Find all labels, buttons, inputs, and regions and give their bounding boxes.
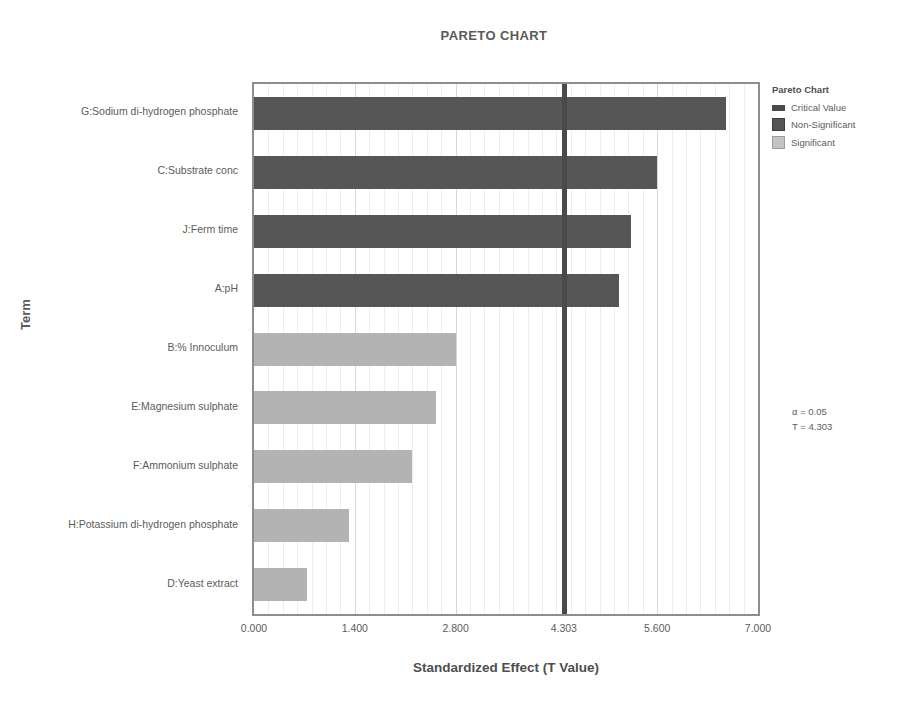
significance-annotation: α = 0.05 T = 4.303 bbox=[792, 404, 832, 434]
y-axis-category-label: B:% Innoculum bbox=[167, 341, 238, 353]
x-axis-tick-label: 4.303 bbox=[551, 622, 577, 634]
gridline-minor bbox=[744, 84, 745, 614]
bar bbox=[254, 156, 657, 189]
x-axis-tick-label: 0.000 bbox=[241, 622, 267, 634]
gridline-minor bbox=[729, 84, 730, 614]
legend-item-label: Significant bbox=[791, 137, 835, 148]
y-axis-category-label: D:Yeast extract bbox=[167, 577, 238, 589]
x-axis-title: Standardized Effect (T Value) bbox=[252, 660, 760, 675]
legend-swatch-critical-icon bbox=[772, 105, 785, 111]
y-axis-category-label: H:Potassium di-hydrogen phosphate bbox=[68, 518, 238, 530]
x-axis-tick-label: 1.400 bbox=[342, 622, 368, 634]
legend: Pareto Chart Critical ValueNon-Significa… bbox=[772, 84, 902, 154]
legend-item-label: Critical Value bbox=[791, 102, 846, 113]
bar bbox=[254, 509, 349, 542]
y-axis-category-label: E:Magnesium sulphate bbox=[131, 400, 238, 412]
legend-item[interactable]: Non-Significant bbox=[772, 118, 902, 131]
gridline-major bbox=[657, 84, 658, 614]
chart-title: PARETO CHART bbox=[0, 28, 908, 43]
bar bbox=[254, 391, 436, 424]
gridline-minor bbox=[700, 84, 701, 614]
legend-item-label: Non-Significant bbox=[791, 119, 855, 130]
y-axis-category-label: J:Ferm time bbox=[183, 223, 238, 235]
x-axis-tick-labels: 0.0001.4002.8004.3035.6007.000 bbox=[252, 622, 760, 642]
plot-area bbox=[252, 82, 760, 616]
pareto-chart-figure: PARETO CHART Term G:Sodium di-hydrogen p… bbox=[0, 0, 908, 703]
bar bbox=[254, 568, 307, 601]
y-axis-category-labels: G:Sodium di-hydrogen phosphateC:Substrat… bbox=[0, 82, 246, 616]
legend-swatch-nonsig-icon bbox=[772, 118, 785, 131]
critical-value-line bbox=[562, 84, 567, 614]
x-axis-tick-label: 7.000 bbox=[745, 622, 771, 634]
legend-item[interactable]: Critical Value bbox=[772, 102, 902, 113]
x-axis-tick-label: 2.800 bbox=[442, 622, 468, 634]
bar bbox=[254, 333, 456, 366]
y-axis-category-label: C:Substrate conc bbox=[157, 164, 238, 176]
y-axis-category-label: F:Ammonium sulphate bbox=[133, 459, 238, 471]
gridline-minor bbox=[672, 84, 673, 614]
legend-swatch-sig-icon bbox=[772, 136, 785, 149]
x-axis-tick-label: 5.600 bbox=[644, 622, 670, 634]
y-axis-category-label: A:pH bbox=[215, 282, 238, 294]
bar bbox=[254, 215, 631, 248]
bar bbox=[254, 97, 726, 130]
alpha-value: α = 0.05 bbox=[792, 404, 832, 419]
legend-items: Critical ValueNon-SignificantSignificant bbox=[772, 102, 902, 149]
bar bbox=[254, 450, 412, 483]
gridline-minor bbox=[715, 84, 716, 614]
gridline-minor bbox=[686, 84, 687, 614]
legend-title: Pareto Chart bbox=[772, 84, 902, 95]
y-axis-category-label: G:Sodium di-hydrogen phosphate bbox=[81, 105, 238, 117]
t-critical-value: T = 4.303 bbox=[792, 419, 832, 434]
legend-item[interactable]: Significant bbox=[772, 136, 902, 149]
